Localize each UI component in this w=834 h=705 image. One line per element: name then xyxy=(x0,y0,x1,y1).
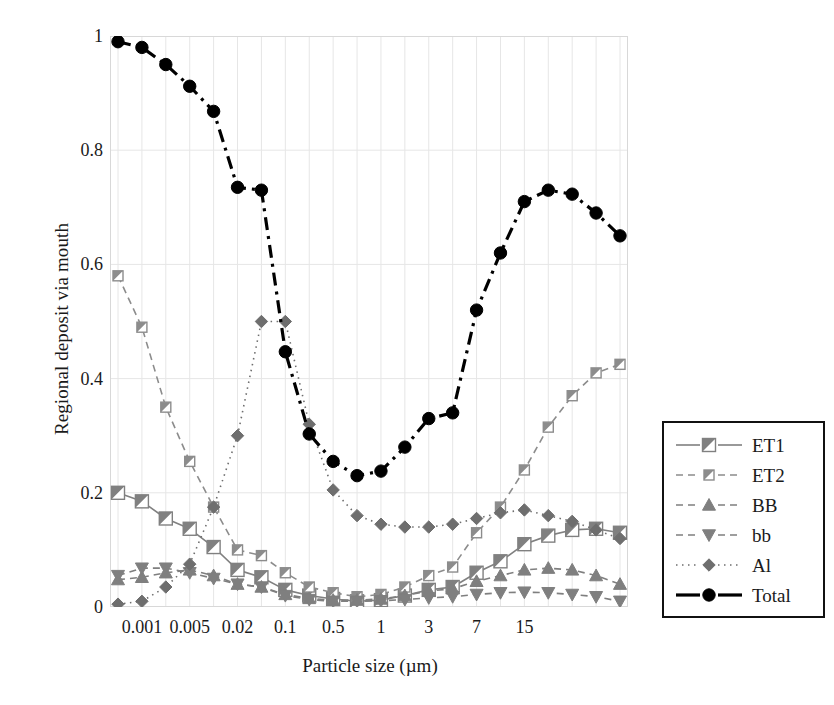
x-axis-title: Particle size (µm) xyxy=(110,655,630,677)
y-tick-label: 0.8 xyxy=(0,141,103,159)
legend-item-al[interactable]: Al xyxy=(664,550,823,580)
grid-lines xyxy=(110,36,628,607)
plot-area xyxy=(110,36,628,607)
legend-label: Al xyxy=(746,556,771,575)
legend-item-bb[interactable]: BB xyxy=(664,490,823,520)
legend-label: BB xyxy=(746,496,777,515)
series-total xyxy=(112,36,626,482)
x-tick-label: 15 xyxy=(489,618,559,636)
y-tick-label: 0.2 xyxy=(0,484,103,502)
legend-label: ET2 xyxy=(746,466,785,485)
plot-canvas xyxy=(110,36,628,607)
legend-item-bb[interactable]: bb xyxy=(664,520,823,550)
legend-label: Total xyxy=(746,586,791,605)
legend-item-et1[interactable]: ET1 xyxy=(664,430,823,460)
legend-item-total[interactable]: Total xyxy=(664,580,823,610)
y-tick-label: 1 xyxy=(0,27,103,45)
legend: ET1ET2BBbbAlTotal xyxy=(662,421,825,618)
legend-label: bb xyxy=(746,526,771,545)
y-axis-title: Regional deposit via mouth xyxy=(51,179,73,479)
y-tick-label: 0.6 xyxy=(0,255,103,273)
legend-swatch-et1 xyxy=(672,432,746,458)
legend-swatch-total xyxy=(672,582,746,608)
legend-swatch-al xyxy=(672,552,746,578)
legend-swatch-bb xyxy=(672,522,746,548)
legend-swatch-et2 xyxy=(672,462,746,488)
chart-figure: Regional deposit via mouth 00.20.40.60.8… xyxy=(0,0,834,705)
legend-item-et2[interactable]: ET2 xyxy=(664,460,823,490)
y-tick-label: 0.4 xyxy=(0,370,103,388)
legend-label: ET1 xyxy=(746,436,785,455)
legend-swatch-bb xyxy=(672,492,746,518)
y-tick-label: 0 xyxy=(0,598,103,616)
